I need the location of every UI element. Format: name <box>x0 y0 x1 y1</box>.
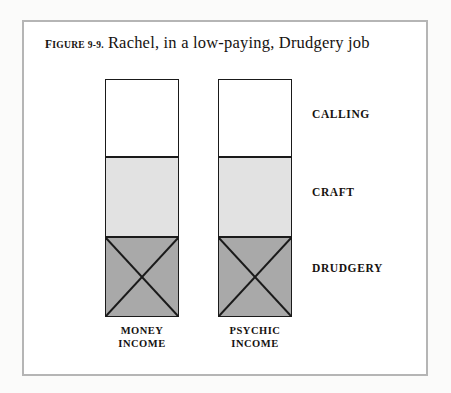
drudgery-cross-icon <box>106 238 178 316</box>
figure-root: FIGURE 9-9.Rachel, in a low-paying, Drud… <box>0 0 451 393</box>
bar-psychic-income <box>218 79 292 317</box>
drudgery-cross-icon <box>219 238 291 316</box>
axis-label-psychic-income: PSYCHIC INCOME <box>218 324 292 350</box>
bar-money-income <box>105 79 179 317</box>
figure-frame: FIGURE 9-9.Rachel, in a low-paying, Drud… <box>22 20 428 376</box>
bar-segment-calling <box>218 79 292 157</box>
legend-label-calling: CALLING <box>312 108 370 120</box>
legend-label-drudgery: DRUDGERY <box>312 262 383 274</box>
bar-segment-drudgery <box>105 237 179 317</box>
bar-segment-drudgery <box>218 237 292 317</box>
bar-segment-craft <box>105 157 179 237</box>
bar-segment-craft <box>218 157 292 237</box>
axis-label-psychic-line1: PSYCHIC <box>218 324 292 337</box>
bar-segment-calling <box>105 79 179 157</box>
legend-label-craft: CRAFT <box>312 186 355 198</box>
plot-area: CALLING CRAFT DRUDGERY MONEY INCOME PSYC… <box>24 22 430 378</box>
axis-label-money-line2: INCOME <box>105 337 179 350</box>
axis-label-money-income: MONEY INCOME <box>105 324 179 350</box>
axis-label-psychic-line2: INCOME <box>218 337 292 350</box>
axis-label-money-line1: MONEY <box>105 324 179 337</box>
